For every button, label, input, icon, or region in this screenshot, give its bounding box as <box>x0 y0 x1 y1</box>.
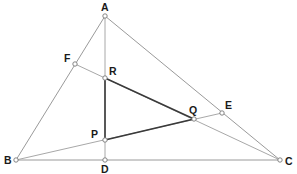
point-b <box>14 158 18 162</box>
point-a <box>103 14 107 18</box>
outer-triangle <box>16 16 280 160</box>
label-p: P <box>91 128 98 140</box>
cevians <box>16 16 280 160</box>
point-p <box>103 138 107 142</box>
label-e: E <box>225 99 232 111</box>
label-f: F <box>64 52 71 64</box>
point-d <box>103 158 107 162</box>
label-d: D <box>101 163 109 174</box>
point-r <box>103 76 107 80</box>
points <box>14 14 282 162</box>
point-q <box>192 117 196 121</box>
label-a: A <box>101 1 109 13</box>
label-q: Q <box>189 104 197 116</box>
labels: A B C D E F P Q R <box>4 1 293 174</box>
label-c: C <box>285 155 293 167</box>
point-c <box>278 158 282 162</box>
label-b: B <box>4 154 12 166</box>
label-r: R <box>109 65 117 77</box>
point-f <box>73 62 77 66</box>
side-ac <box>105 16 280 160</box>
geometry-diagram: A B C D E F P Q R <box>0 0 297 174</box>
inner-triangle-pqr <box>105 78 194 140</box>
point-e <box>220 111 224 115</box>
